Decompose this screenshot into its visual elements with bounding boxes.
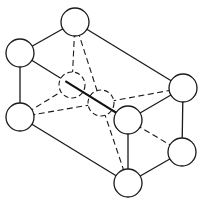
lattice-svg [0,0,202,204]
atom-right-lower [168,138,196,166]
atom-left-mid [6,103,34,131]
atom-top [61,8,89,36]
atom-bottom [114,169,142,197]
bond-top-right-upper [75,22,183,88]
crystal-structure-diagram [0,0,202,204]
atom-upper-left [6,39,34,67]
atom-right-upper [169,74,197,102]
atom-front-mid [114,106,142,134]
bond-left-mid-bottom [20,117,128,183]
